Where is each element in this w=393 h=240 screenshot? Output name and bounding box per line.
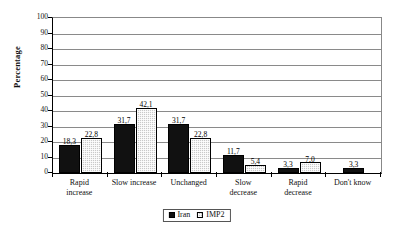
x-axis-category-label: Rapiddecrease	[271, 178, 326, 198]
x-axis-category-label: Rapidincrease	[52, 178, 107, 198]
y-axis-tick-label: 100	[26, 13, 48, 21]
y-axis-tick-label: 50	[26, 91, 48, 99]
category-label-line: Rapid	[52, 178, 107, 188]
y-axis-tick-label: 40	[26, 106, 48, 114]
x-axis-tick-mark	[325, 172, 326, 177]
bar-value-label: 42,1	[139, 101, 152, 109]
gridline	[53, 65, 381, 66]
x-axis-category-label: Slowdecrease	[216, 178, 271, 198]
legend-swatch-icon	[168, 212, 174, 218]
gridline	[53, 34, 381, 35]
y-axis-tick-label: 30	[26, 122, 48, 130]
bar-value-label: 22,8	[85, 131, 98, 139]
legend-item-label: Iran	[177, 211, 190, 219]
x-axis-category-label: Slow increase	[107, 178, 162, 188]
gridline	[53, 158, 381, 159]
x-axis-tick-mark	[380, 172, 381, 177]
bar-value-label: 18,3	[63, 138, 76, 146]
category-label-line: Slow	[216, 178, 271, 188]
legend-swatch-icon	[197, 212, 203, 218]
y-axis-tick-label: 80	[26, 44, 48, 52]
x-axis-category-label: Don't know	[325, 178, 380, 188]
legend-item-iran[interactable]: Iran	[168, 211, 190, 219]
bar-value-label: 7,0	[305, 156, 314, 164]
bar-value-label: 3,3	[283, 161, 292, 169]
category-label-line: Unchanged	[161, 178, 216, 188]
bar-value-label: 5,4	[251, 158, 260, 166]
gridline	[53, 96, 381, 97]
gridline	[53, 80, 381, 81]
y-axis-tick-label: 0	[26, 168, 48, 176]
bar-imp2-4: 7,0	[300, 162, 321, 173]
plot-area: 18,322,831,742,131,722,811,75,43,37,03,3	[52, 17, 382, 174]
category-label-line: decrease	[216, 188, 271, 198]
y-axis-tick-label: 60	[26, 75, 48, 83]
category-label-line: Don't know	[325, 178, 380, 188]
bar-imp2-3: 5,4	[245, 165, 266, 173]
bar-value-label: 22,8	[194, 131, 207, 139]
y-axis-tick-label: 20	[26, 137, 48, 145]
bar-iran-2: 31,7	[168, 124, 189, 173]
chart-legend: IranIMP2	[162, 209, 230, 222]
x-axis-tick-mark	[107, 172, 108, 177]
bar-iran-0: 18,3	[59, 145, 80, 173]
bar-imp2-0: 22,8	[81, 138, 102, 173]
x-axis-tick-mark	[216, 172, 217, 177]
category-label-line: Slow increase	[107, 178, 162, 188]
bar-value-label: 31,7	[117, 117, 130, 125]
bar-value-label: 31,7	[172, 117, 185, 125]
category-label-line: increase	[52, 188, 107, 198]
x-axis-category-label: Unchanged	[161, 178, 216, 188]
x-axis-tick-mark	[161, 172, 162, 177]
y-axis-tick-label: 10	[26, 153, 48, 161]
bar-iran-4: 3,3	[278, 168, 299, 173]
bar-imp2-1: 42,1	[136, 108, 157, 173]
gridline	[53, 111, 381, 112]
category-label-line: decrease	[271, 188, 326, 198]
y-axis-tick-label: 90	[26, 29, 48, 37]
bar-iran-1: 31,7	[114, 124, 135, 173]
y-axis-tick-label: 70	[26, 60, 48, 68]
legend-item-label: IMP2	[206, 211, 224, 219]
bar-value-label: 3,3	[349, 161, 358, 169]
bar-iran-5: 3,3	[343, 168, 364, 173]
gridline	[53, 142, 381, 143]
gridline	[53, 49, 381, 50]
legend-item-imp2[interactable]: IMP2	[197, 211, 224, 219]
x-axis-tick-mark	[52, 172, 53, 177]
bar-iran-3: 11,7	[223, 155, 244, 173]
bar-value-label: 11,7	[227, 148, 240, 156]
category-label-line: Rapid	[271, 178, 326, 188]
y-axis-title: Percentage	[12, 22, 22, 112]
bar-chart: Percentage 1009080706050403020100 18,322…	[0, 0, 393, 240]
x-axis-tick-mark	[271, 172, 272, 177]
gridline	[53, 127, 381, 128]
bar-imp2-2: 22,8	[190, 138, 211, 173]
